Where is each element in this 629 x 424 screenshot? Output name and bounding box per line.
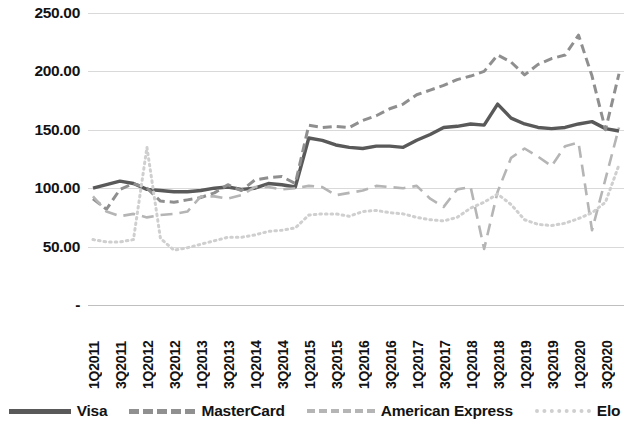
x-axis-tick-label: 3Q2014	[275, 307, 291, 389]
y-axis-tick-label: 150.00	[2, 122, 80, 138]
y-axis-tick-label: 250.00	[2, 5, 80, 21]
legend-label: Elo	[597, 402, 621, 420]
dotted-line-swatch-icon	[535, 409, 591, 413]
legend-item-mastercard[interactable]: MasterCard	[129, 402, 284, 420]
x-axis-tick-label: 3Q2015	[329, 307, 345, 389]
x-axis-tick-label: 1Q2017	[410, 307, 426, 389]
x-axis-tick-label: 1Q2020	[572, 307, 588, 389]
x-axis-tick-label: 1Q2018	[464, 307, 480, 389]
chart-legend: VisaMasterCardAmerican ExpressElo	[0, 398, 629, 424]
x-axis: 1Q20113Q20111Q20123Q20121Q20133Q20131Q20…	[88, 307, 624, 395]
dashed-line-swatch-icon	[129, 409, 195, 414]
x-axis-tick-label: 1Q2019	[518, 307, 534, 389]
x-axis-tick-label: 3Q2013	[221, 307, 237, 389]
x-axis-tick-label: 1Q2012	[140, 307, 156, 389]
series-line-mastercard	[93, 35, 619, 209]
series-line-american-express	[93, 127, 619, 248]
x-axis-tick-label: 1Q2015	[302, 307, 318, 389]
solid-line-swatch-icon	[9, 409, 71, 414]
axis-baseline	[88, 305, 624, 306]
x-axis-tick-label: 1Q2011	[86, 307, 102, 389]
legend-item-american-express[interactable]: American Express	[307, 402, 513, 420]
x-axis-tick-label: 3Q2016	[383, 307, 399, 389]
legend-label: Visa	[77, 402, 108, 420]
x-axis-tick-label: 3Q2020	[599, 307, 615, 389]
legend-label: MasterCard	[201, 402, 284, 420]
line-chart: 250.00200.00150.00100.0050.00- 1Q20113Q2…	[0, 0, 629, 424]
x-axis-tick-label: 1Q2014	[248, 307, 264, 389]
x-axis-tick-label: 3Q2018	[491, 307, 507, 389]
x-axis-tick-label: 1Q2016	[356, 307, 372, 389]
x-axis-tick-label: 3Q2011	[113, 307, 129, 389]
legend-item-elo[interactable]: Elo	[535, 402, 621, 420]
x-axis-tick-label: 3Q2012	[167, 307, 183, 389]
y-axis-tick-label: 200.00	[2, 63, 80, 79]
longdash-line-swatch-icon	[307, 409, 375, 413]
y-axis-tick-label: -	[2, 297, 80, 313]
y-axis-tick-label: 50.00	[2, 239, 80, 255]
x-axis-tick-label: 1Q2013	[194, 307, 210, 389]
y-axis-tick-label: 100.00	[2, 180, 80, 196]
series-line-visa	[93, 104, 619, 192]
x-axis-tick-label: 3Q2019	[545, 307, 561, 389]
series-line-elo	[93, 147, 619, 250]
plot-area	[88, 13, 624, 305]
series-lines	[88, 13, 624, 305]
legend-label: American Express	[381, 402, 513, 420]
x-axis-tick-label: 3Q2017	[437, 307, 453, 389]
legend-item-visa[interactable]: Visa	[9, 402, 108, 420]
